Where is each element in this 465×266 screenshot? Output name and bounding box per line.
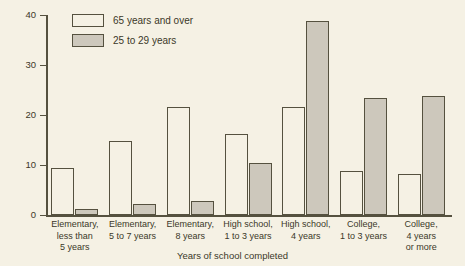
- bar-series-a: [109, 141, 132, 215]
- bar-series-a: [51, 168, 74, 215]
- bar-series-a: [282, 107, 305, 216]
- bar-series-b: [306, 21, 329, 215]
- legend-swatch-icon: [72, 14, 104, 27]
- bar-series-a: [398, 174, 421, 215]
- legend-swatch-icon: [72, 34, 104, 47]
- x-axis-line: [46, 215, 452, 217]
- legend-item-65-and-over: 65 years and over: [72, 14, 193, 27]
- chart-legend: 65 years and over 25 to 29 years: [72, 14, 193, 54]
- y-axis-tick-label: 0: [14, 210, 36, 220]
- y-axis-tick-label: 40: [14, 10, 36, 20]
- bar-series-a: [167, 107, 190, 216]
- bar-series-b: [133, 204, 156, 215]
- bar-series-b: [364, 98, 387, 216]
- x-axis-title: Years of school completed: [0, 250, 465, 261]
- legend-label: 25 to 29 years: [113, 35, 176, 46]
- bar-chart-figure: Percent 010203040 65 years and over 25 t…: [0, 0, 465, 266]
- bar-series-b: [249, 163, 272, 215]
- y-axis-tick: [40, 215, 47, 216]
- y-axis-tick-label: 20: [14, 110, 36, 120]
- bar-series-b: [191, 201, 214, 215]
- y-axis-tick-label: 10: [14, 160, 36, 170]
- y-axis-tick-label: 30: [14, 60, 36, 70]
- legend-item-25-to-29: 25 to 29 years: [72, 34, 193, 47]
- bar-series-a: [225, 134, 248, 215]
- bar-series-b: [422, 96, 445, 215]
- x-axis-category-label: College,4 yearsor more: [386, 219, 456, 254]
- bar-series-b: [75, 209, 98, 216]
- legend-label: 65 years and over: [113, 15, 193, 26]
- bar-series-a: [340, 171, 363, 216]
